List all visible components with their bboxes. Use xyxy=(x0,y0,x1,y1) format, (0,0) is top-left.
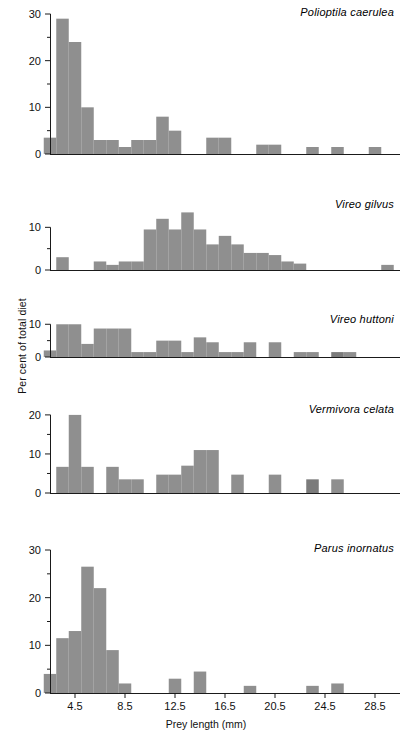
histogram-bar xyxy=(269,255,282,270)
histogram-bar xyxy=(119,329,132,357)
y-tick-label: 10 xyxy=(29,221,41,233)
y-tick-label: 20 xyxy=(29,592,41,604)
histogram-bar xyxy=(306,479,319,493)
histogram-bar xyxy=(331,479,344,493)
x-axis-label: Prey length (mm) xyxy=(0,718,412,730)
histogram-bar xyxy=(56,19,69,154)
x-tick-label: 4.5 xyxy=(67,700,82,712)
histogram-bar xyxy=(106,329,119,357)
histogram-bar xyxy=(131,479,144,493)
histogram-bar xyxy=(69,415,82,493)
histogram-bar xyxy=(106,467,119,493)
histogram-bar xyxy=(69,631,82,693)
histogram-bar xyxy=(331,352,344,357)
y-tick-label: 10 xyxy=(29,318,41,330)
histogram-bar xyxy=(106,650,119,693)
histogram-bar xyxy=(69,324,82,357)
y-tick-label: 20 xyxy=(29,55,41,67)
y-tick-label: 30 xyxy=(29,544,41,556)
histogram-bar xyxy=(306,352,319,357)
histogram-bar xyxy=(194,450,207,493)
histogram-bar xyxy=(119,147,132,154)
histogram-plot-0: 0102030 xyxy=(0,4,412,176)
histogram-bar xyxy=(56,257,69,270)
histogram-bar xyxy=(69,42,82,154)
histogram-bar xyxy=(181,352,194,357)
histogram-bar xyxy=(256,253,269,270)
histogram-bar xyxy=(206,450,219,493)
x-tick-label: 8.5 xyxy=(117,700,132,712)
figure-multipanel-histograms: Per cent of total diet Polioptila caerul… xyxy=(0,0,412,739)
histogram-bar xyxy=(56,638,69,693)
histogram-bar xyxy=(344,352,357,357)
histogram-bar xyxy=(94,140,107,154)
histogram-bar xyxy=(269,475,282,493)
x-tick-label: 16.5 xyxy=(214,700,235,712)
histogram-bar xyxy=(144,229,157,270)
histogram-bar xyxy=(131,140,144,154)
histogram-bar xyxy=(119,261,132,270)
histogram-bar xyxy=(256,145,269,154)
histogram-bar xyxy=(81,567,94,693)
histogram-bar xyxy=(169,229,182,270)
histogram-bar xyxy=(331,683,344,693)
histogram-bar xyxy=(56,324,69,357)
histogram-bar xyxy=(281,261,294,270)
histogram-bar xyxy=(231,475,244,493)
histogram-bar xyxy=(144,140,157,154)
histogram-bar xyxy=(244,342,257,357)
histogram-bar xyxy=(181,466,194,493)
histogram-bar xyxy=(244,253,257,270)
histogram-plot-2: 010 xyxy=(0,311,412,379)
y-tick-label: 0 xyxy=(35,687,41,699)
histogram-bar xyxy=(156,219,169,270)
histogram-bar xyxy=(119,479,132,493)
histogram-bar xyxy=(206,342,219,357)
histogram-plot-3: 01020 xyxy=(0,401,412,515)
x-tick-label: 20.5 xyxy=(264,700,285,712)
histogram-bar xyxy=(194,337,207,357)
histogram-bar xyxy=(94,329,107,357)
histogram-bar xyxy=(181,212,194,270)
histogram-bar xyxy=(156,341,169,357)
histogram-bar xyxy=(231,352,244,357)
histogram-bar xyxy=(94,588,107,693)
histogram-bar xyxy=(269,342,282,357)
panel-vermivora-celata: Vermivora celata 01020 xyxy=(0,401,412,515)
histogram-bar xyxy=(244,686,257,693)
histogram-bar xyxy=(194,229,207,270)
y-tick-label: 0 xyxy=(35,487,41,499)
histogram-bar xyxy=(306,147,319,154)
histogram-bar xyxy=(131,261,144,270)
histogram-bar xyxy=(231,244,244,270)
x-tick-label: 12.5 xyxy=(164,700,185,712)
histogram-bar xyxy=(206,138,219,154)
panel-vireo-huttoni: Vireo huttoni 010 xyxy=(0,311,412,379)
histogram-bar xyxy=(81,467,94,493)
histogram-bar xyxy=(94,261,107,270)
x-tick-label: 28.5 xyxy=(364,700,385,712)
histogram-bar xyxy=(106,140,119,154)
histogram-plot-1: 010 xyxy=(0,196,412,292)
y-tick-label: 0 xyxy=(35,148,41,160)
histogram-bar xyxy=(331,147,344,154)
histogram-bar xyxy=(119,683,132,693)
histogram-plot-4: 01020304.58.512.516.520.524.528.5 xyxy=(0,540,412,715)
y-tick-label: 10 xyxy=(29,448,41,460)
histogram-bar xyxy=(294,264,307,270)
histogram-bar xyxy=(81,344,94,357)
y-tick-label: 30 xyxy=(29,8,41,20)
histogram-bar xyxy=(381,265,394,270)
histogram-bar xyxy=(369,147,382,154)
histogram-bar xyxy=(219,138,232,154)
histogram-bar xyxy=(144,352,157,357)
histogram-bar xyxy=(169,475,182,493)
histogram-bar xyxy=(56,467,69,493)
y-tick-label: 20 xyxy=(29,409,41,421)
panel-polioptila-caerulea: Polioptila caerulea 0102030 xyxy=(0,4,412,176)
histogram-bar xyxy=(269,145,282,154)
panel-parus-inornatus: Parus inornatus 01020304.58.512.516.520.… xyxy=(0,540,412,715)
y-tick-label: 0 xyxy=(35,351,41,363)
histogram-bar xyxy=(156,475,169,493)
histogram-bar xyxy=(169,341,182,357)
